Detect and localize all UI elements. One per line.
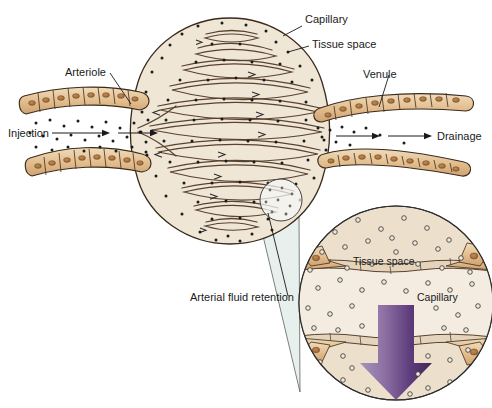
inset-label-tissue-space: Tissue space bbox=[353, 255, 415, 267]
label-tissue-space: Tissue space bbox=[312, 38, 376, 50]
inset-magnified-capillary: Tissue space Capillary bbox=[298, 202, 492, 400]
capillary-bed bbox=[131, 18, 330, 244]
label-venule: Venule bbox=[363, 68, 397, 80]
label-arteriole: Arteriole bbox=[65, 66, 106, 78]
inset-label-capillary: Capillary bbox=[417, 291, 459, 303]
label-capillary: Capillary bbox=[305, 13, 348, 25]
drainage-arrow bbox=[336, 133, 432, 139]
label-injection: Injection bbox=[8, 127, 49, 139]
diagram-canvas: Tissue space Capillary Arteriole Injecti… bbox=[0, 0, 492, 408]
capillary-bed-diagram: Tissue space Capillary Arteriole Injecti… bbox=[0, 0, 492, 408]
label-drainage: Drainage bbox=[437, 130, 482, 142]
label-arterial-fluid-retention: Arterial fluid retention bbox=[190, 291, 294, 303]
